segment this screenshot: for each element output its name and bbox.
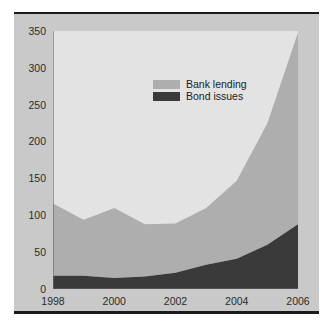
y-tick-label: 200 — [28, 135, 46, 147]
x-tick-label: 2002 — [164, 295, 188, 307]
y-tick-label: 350 — [28, 25, 46, 37]
x-tick-label: 2000 — [103, 295, 127, 307]
y-tick-label: 100 — [28, 209, 46, 221]
y-tick-label: 0 — [40, 283, 46, 295]
x-tick-label: 2006 — [286, 295, 310, 307]
y-tick-label: 50 — [34, 246, 46, 258]
y-tick-label: 150 — [28, 172, 46, 184]
x-tick-label: 1998 — [41, 295, 65, 307]
y-tick-label: 300 — [28, 62, 46, 74]
x-tick-labels: 19982000200220042006 — [41, 295, 310, 307]
plot-area: 050100150200250300350 199820002002200420… — [53, 31, 298, 289]
figure-bottom-rule — [14, 311, 319, 314]
chart-figure: 050100150200250300350 199820002002200420… — [14, 14, 319, 314]
y-tick-labels: 050100150200250300350 — [28, 25, 46, 295]
y-tick-label: 250 — [28, 99, 46, 111]
stacked-area-chart — [53, 31, 298, 289]
x-tick-label: 2004 — [225, 295, 249, 307]
